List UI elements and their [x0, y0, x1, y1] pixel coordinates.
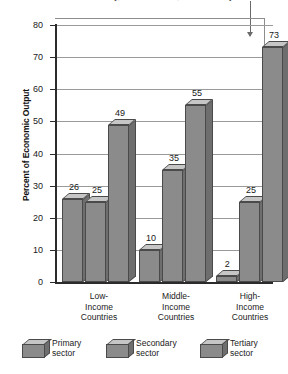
- x-category-label-low: Low- Income Countries: [62, 291, 136, 323]
- legend-label-tertiary: Tertiary sector: [230, 338, 258, 358]
- y-tick-label-0: 0: [38, 277, 43, 287]
- bar-middle-primary: 10: [139, 250, 160, 282]
- bar-value-label: 26: [69, 182, 79, 192]
- bar-low-primary: 26: [62, 199, 83, 282]
- y-tick-label-60: 60: [33, 84, 43, 94]
- bar-value-label: 73: [269, 30, 279, 40]
- x-category-label-high: High- Income Countries: [213, 291, 287, 323]
- bar-front-face: [108, 125, 129, 282]
- bar-value-label: 10: [146, 233, 156, 243]
- chart-legend: Primary sector Secondary sector Tertiary…: [22, 333, 272, 367]
- chart-caption-fragment: the tertiary, or service sector, of the …: [82, 0, 288, 1]
- bar-side-face: [283, 41, 288, 282]
- legend-swatch-icon: [106, 339, 131, 356]
- x-axis-line: [55, 282, 273, 284]
- bar-side-face: [206, 99, 213, 282]
- bar-low-tertiary: 49: [108, 125, 129, 282]
- x-category-label-middle: Middle- Income Countries: [139, 291, 213, 323]
- bar-front-face: [139, 250, 160, 282]
- bar-front-face: [162, 170, 183, 282]
- bar-value-label: 25: [246, 185, 256, 195]
- bar-low-secondary: 25: [85, 202, 106, 282]
- bar-front-face: [62, 199, 83, 282]
- bar-middle-secondary: 35: [162, 170, 183, 282]
- bar-value-label: 49: [115, 108, 125, 118]
- legend-swatch-icon: [200, 339, 225, 356]
- bar-value-label: 2: [225, 259, 230, 269]
- y-tick-label-80: 80: [33, 20, 43, 30]
- bar-side-face: [129, 119, 136, 282]
- bar-value-label: 25: [92, 185, 102, 195]
- legend-label-secondary: Secondary sector: [136, 338, 177, 358]
- plot-area: 0 10 20 30 40 50 60 70 8: [55, 24, 273, 283]
- bar-front-face: [185, 105, 206, 282]
- bar-high-tertiary: 73: [262, 47, 283, 282]
- legend-label-primary: Primary sector: [52, 338, 81, 358]
- gridline-60: [55, 89, 273, 90]
- bar-front-face: [85, 202, 106, 282]
- bar-chart-figure: the tertiary, or service sector, of the …: [0, 0, 288, 374]
- gridline-40: [55, 154, 273, 155]
- y-tick-label-40: 40: [33, 149, 43, 159]
- legend-swatch-icon: [22, 339, 47, 356]
- y-tick-label-50: 50: [33, 116, 43, 126]
- gridline-50: [55, 121, 273, 122]
- y-tick-label-70: 70: [33, 52, 43, 62]
- y-axis-line: [55, 24, 57, 283]
- y-axis-title: Percent of Economic Output: [21, 65, 31, 225]
- bar-value-label: 55: [192, 88, 202, 98]
- y-tick-label-10: 10: [33, 245, 43, 255]
- bar-front-face: [262, 47, 283, 282]
- gridline-70: [55, 57, 273, 58]
- bar-middle-tertiary: 55: [185, 105, 206, 282]
- bar-front-face: [216, 276, 237, 282]
- bar-value-label: 35: [169, 153, 179, 163]
- y-tick-label-20: 20: [33, 213, 43, 223]
- bar-high-secondary: 25: [239, 202, 260, 282]
- plot-box-top-edge: [55, 18, 265, 19]
- y-tick-label-30: 30: [33, 181, 43, 191]
- bar-high-primary: 2: [216, 276, 237, 282]
- bar-front-face: [239, 202, 260, 282]
- gridline-80: [55, 25, 273, 26]
